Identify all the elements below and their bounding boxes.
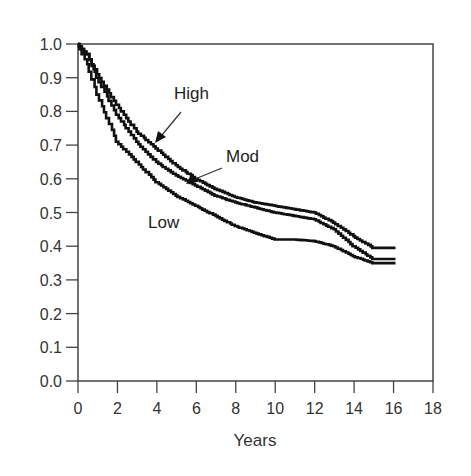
y-tick-label: 0.1 (40, 339, 62, 356)
x-tick-label: 16 (385, 400, 403, 417)
plot-frame (78, 44, 433, 381)
label-low: Low (148, 213, 180, 232)
y-tick-label: 0.4 (40, 238, 62, 255)
x-tick-label: 14 (345, 400, 363, 417)
x-tick-label: 8 (231, 400, 240, 417)
y-tick-label: 0.2 (40, 306, 62, 323)
label-mod: Mod (226, 147, 259, 166)
x-axis: 024681012141618 (74, 381, 442, 417)
curve-high (78, 44, 396, 248)
x-tick-label: 10 (266, 400, 284, 417)
y-tick-label: 0.9 (40, 70, 62, 87)
x-tick-label: 0 (74, 400, 83, 417)
y-tick-label: 0.3 (40, 272, 62, 289)
y-tick-label: 1.0 (40, 36, 62, 53)
y-tick-label: 0.7 (40, 137, 62, 154)
x-tick-label: 18 (424, 400, 442, 417)
y-axis: 0.00.10.20.30.40.50.60.70.80.91.0 (40, 36, 78, 390)
y-tick-label: 0.5 (40, 205, 62, 222)
y-tick-label: 0.8 (40, 103, 62, 120)
arrow-mod (195, 168, 222, 179)
y-tick-label: 0.0 (40, 373, 62, 390)
y-tick-label: 0.6 (40, 171, 62, 188)
arrow-high (162, 112, 181, 135)
x-tick-label: 12 (306, 400, 324, 417)
x-tick-label: 2 (113, 400, 122, 417)
survival-chart: 0.00.10.20.30.40.50.60.70.80.91.0 024681… (0, 0, 471, 476)
x-tick-label: 4 (152, 400, 161, 417)
label-high: High (174, 84, 209, 103)
x-tick-label: 6 (192, 400, 201, 417)
x-axis-title: Years (234, 431, 277, 450)
